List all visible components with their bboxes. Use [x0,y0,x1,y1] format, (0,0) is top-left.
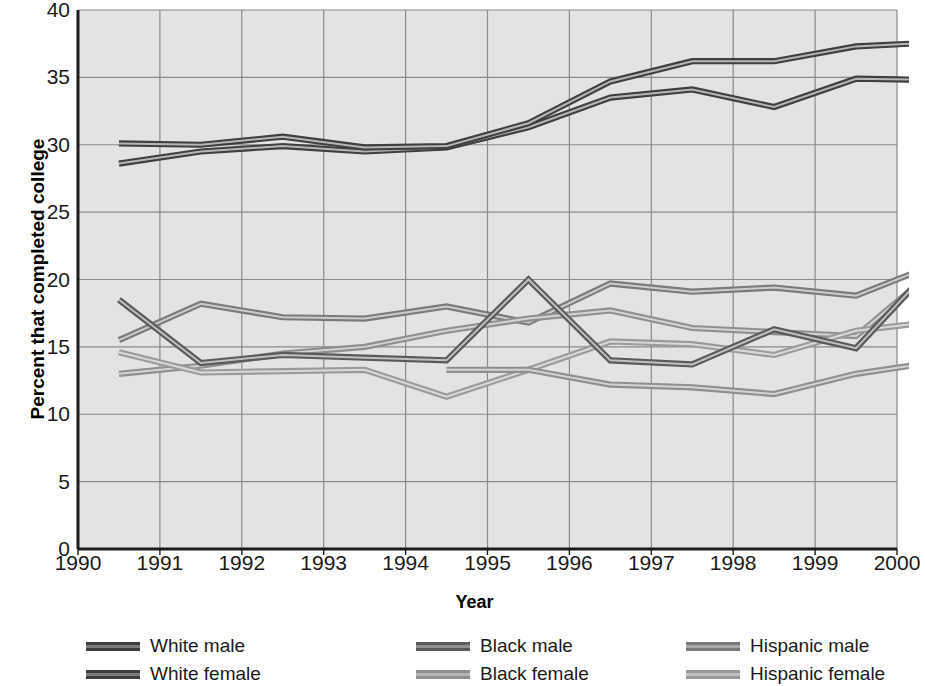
legend-swatch-icon [686,670,740,679]
legend-item[interactable]: Hispanic male [686,635,869,657]
x-tick-label: 1993 [279,551,369,575]
y-tick-label: 10 [30,403,70,424]
x-tick-label: 1999 [770,551,860,575]
x-tick-label: 1995 [443,551,533,575]
x-axis-title: Year [0,592,909,613]
x-tick-label: 2000 [852,551,925,575]
legend-swatch-icon [686,642,740,651]
x-tick-label: 1998 [688,551,778,575]
legend-label: Hispanic male [750,635,869,657]
legend-item[interactable]: Black female [416,663,589,685]
x-tick-label: 1996 [524,551,614,575]
legend-swatch-icon [86,642,140,651]
legend-label: Hispanic female [750,663,885,685]
x-tick-label: 1997 [606,551,696,575]
x-axis-tick-labels: 1990199119921993199419951996199719981999… [0,551,909,581]
legend-label: Black male [480,635,573,657]
x-tick-label: 1992 [197,551,287,575]
legend-item[interactable]: Black male [416,635,573,657]
y-tick-label: 15 [30,336,70,357]
legend-swatch-icon [86,670,140,679]
y-tick-label: 40 [30,0,70,20]
y-tick-label: 5 [30,471,70,492]
legend-item[interactable]: White male [86,635,245,657]
x-axis-title-text: Year [415,592,493,612]
legend-label: Black female [480,663,589,685]
x-tick-label: 1990 [33,551,123,575]
x-tick-label: 1991 [115,551,205,575]
legend-item[interactable]: Hispanic female [686,663,885,685]
y-tick-label: 30 [30,134,70,155]
x-tick-label: 1994 [361,551,451,575]
legend-swatch-icon [416,642,470,651]
y-tick-label: 35 [30,66,70,87]
legend-label: White male [150,635,245,657]
chart-legend: White maleBlack maleHispanic maleWhite f… [86,635,886,685]
legend-swatch-icon [416,670,470,679]
legend-item[interactable]: White female [86,663,261,685]
y-axis-tick-labels: 0510152025303540 [28,0,70,686]
legend-label: White female [150,663,261,685]
y-tick-label: 20 [30,269,70,290]
y-tick-label: 25 [30,201,70,222]
